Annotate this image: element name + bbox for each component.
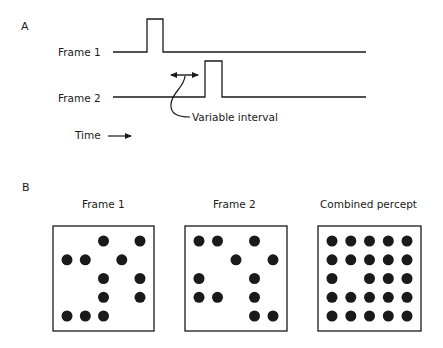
dot xyxy=(249,236,260,247)
dot xyxy=(135,273,146,284)
dot xyxy=(212,236,223,247)
dot xyxy=(327,236,338,247)
dot xyxy=(383,236,394,247)
dot xyxy=(364,311,375,322)
dot xyxy=(80,311,91,322)
dot xyxy=(402,311,413,322)
dot xyxy=(383,311,394,322)
dot xyxy=(383,254,394,265)
dot xyxy=(345,292,356,303)
dot xyxy=(98,236,109,247)
dot xyxy=(402,254,413,265)
dot xyxy=(268,254,279,265)
frame-1-trace xyxy=(113,19,366,52)
dot xyxy=(249,311,260,322)
dot xyxy=(364,273,375,284)
dot xyxy=(383,292,394,303)
dot xyxy=(98,311,109,322)
dot xyxy=(364,236,375,247)
dot xyxy=(98,292,109,303)
dot xyxy=(62,311,73,322)
dot xyxy=(62,254,73,265)
dot-frames xyxy=(53,226,421,331)
dot xyxy=(98,273,109,284)
dot xyxy=(402,292,413,303)
dot xyxy=(268,311,279,322)
dot xyxy=(327,292,338,303)
dot xyxy=(345,254,356,265)
dot xyxy=(327,254,338,265)
dot xyxy=(212,292,223,303)
dot xyxy=(249,292,260,303)
dot xyxy=(345,236,356,247)
dot xyxy=(383,273,394,284)
dot xyxy=(249,273,260,284)
dot xyxy=(135,292,146,303)
dot xyxy=(194,236,205,247)
dot xyxy=(194,273,205,284)
frame-2-trace xyxy=(113,61,366,97)
dot xyxy=(327,273,338,284)
dot xyxy=(364,292,375,303)
dot xyxy=(194,292,205,303)
dot xyxy=(402,273,413,284)
dot xyxy=(116,254,127,265)
dot xyxy=(80,254,91,265)
dot xyxy=(327,311,338,322)
dot xyxy=(364,254,375,265)
diagram-canvas xyxy=(0,0,443,348)
pulse-traces xyxy=(113,19,366,97)
dot xyxy=(135,236,146,247)
dot xyxy=(231,254,242,265)
dot xyxy=(402,236,413,247)
dot xyxy=(345,311,356,322)
